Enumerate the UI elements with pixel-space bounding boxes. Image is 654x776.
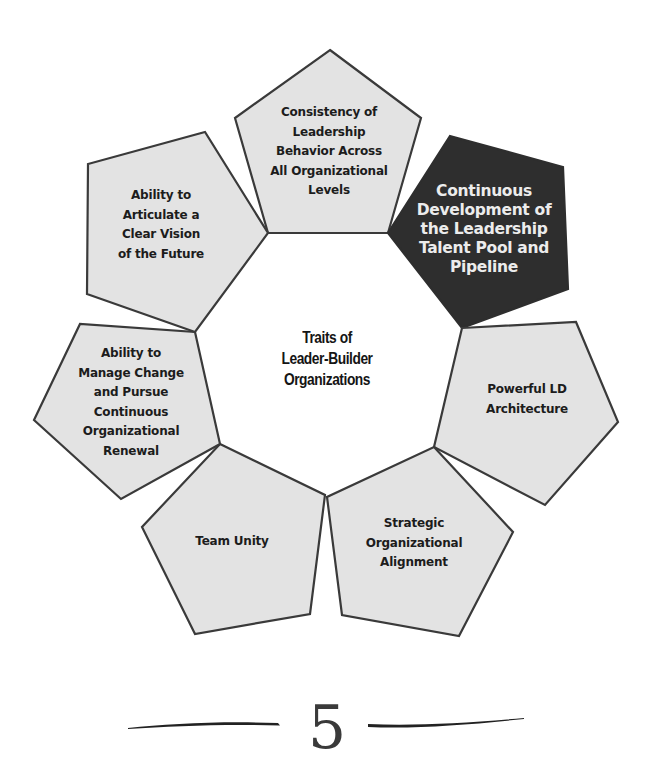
trait-label-line: and Pursue (78, 383, 184, 403)
trait-label-line: Alignment (366, 553, 463, 573)
trait-label-line: Team Unity (195, 532, 268, 552)
diagram-center-title: Traits of Leader-Builder Organizations (274, 327, 380, 390)
center-title-line: Leader-Builder (281, 348, 372, 369)
trait-label-line: Levels (270, 181, 387, 201)
trait-label-line: Strategic (366, 514, 463, 534)
footer-rule-left (128, 715, 288, 735)
trait-label-strategic-alignment: Strategic Organizational Alignment (366, 514, 463, 573)
trait-label-consistency: Consistency of Leadership Behavior Acros… (270, 103, 387, 201)
center-title-line: Traits of (281, 327, 372, 348)
trait-label-line: Clear Vision (118, 225, 204, 245)
trait-label-team-unity: Team Unity (195, 532, 268, 552)
trait-label-line: Organizational (366, 533, 463, 553)
trait-label-line: Ability to (118, 186, 204, 206)
trait-label-ld-architecture: Powerful LD Architecture (486, 380, 568, 419)
trait-label-line: Behavior Across (270, 142, 387, 162)
trait-label-line: Articulate a (118, 206, 204, 226)
trait-label-line: Pipeline (417, 258, 552, 277)
trait-label-line: Ability to (78, 344, 184, 364)
trait-label-line: Organizational (78, 422, 184, 442)
trait-label-line: Renewal (78, 441, 184, 461)
page-number: 5 (308, 697, 346, 757)
trait-label-line: Leadership (270, 123, 387, 143)
trait-label-line: Powerful LD (486, 380, 568, 400)
trait-label-continuous-development: Continuous Development of the Leadership… (417, 182, 552, 277)
trait-label-line: Architecture (486, 399, 568, 419)
trait-label-line: the Leadership (417, 220, 552, 239)
trait-label-line: Development of (417, 201, 552, 220)
trait-label-line: Continuous (417, 182, 552, 201)
trait-label-line: Continuous (78, 402, 184, 422)
trait-label-line: Talent Pool and (417, 239, 552, 258)
center-title-line: Organizations (281, 369, 372, 390)
trait-label-line: of the Future (118, 245, 204, 265)
trait-label-line: Consistency of (270, 103, 387, 123)
trait-label-manage-change: Ability to Manage Change and Pursue Cont… (78, 344, 184, 461)
footer-rule-right (366, 715, 526, 735)
trait-label-line: Manage Change (78, 363, 184, 383)
trait-label-line: All Organizational (270, 162, 387, 182)
trait-label-clear-vision: Ability to Articulate a Clear Vision of … (118, 186, 204, 264)
